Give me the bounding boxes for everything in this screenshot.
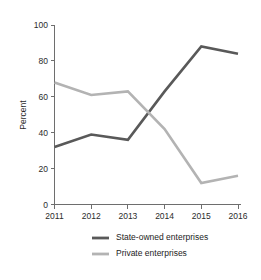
x-tick-label: 2015 — [192, 211, 211, 221]
x-tick-label: 2014 — [155, 211, 174, 221]
chart-legend: State-owned enterprisesPrivate enterpris… — [92, 232, 208, 258]
series-lines — [55, 47, 239, 183]
chart-figure: Percent 020406080100 2011201220132014201… — [0, 0, 261, 280]
y-tick-label: 100 — [34, 20, 48, 30]
x-tick-label: 2016 — [229, 211, 248, 221]
y-tick-label: 0 — [43, 200, 48, 210]
x-tick-label: 2011 — [45, 211, 64, 221]
y-axis-tick-labels: 020406080100 — [34, 20, 48, 210]
y-tick-label: 20 — [39, 164, 49, 174]
y-tick-label: 40 — [39, 128, 49, 138]
legend-label: Private enterprises — [116, 248, 187, 258]
legend-label: State-owned enterprises — [116, 232, 208, 242]
line-chart: Percent 020406080100 2011201220132014201… — [0, 0, 261, 280]
x-axis-tick-labels: 201120122013201420152016 — [45, 211, 247, 221]
x-tick-label: 2012 — [82, 211, 101, 221]
x-tick-label: 2013 — [118, 211, 137, 221]
y-axis-title: Percent — [18, 100, 28, 130]
series-line-state-owned-enterprises — [55, 47, 239, 148]
y-tick-label: 60 — [39, 92, 49, 102]
y-tick-label: 80 — [39, 56, 49, 66]
x-axis-tick-marks — [55, 205, 239, 210]
series-line-private-enterprises — [55, 82, 239, 183]
y-axis-tick-marks — [51, 25, 55, 205]
